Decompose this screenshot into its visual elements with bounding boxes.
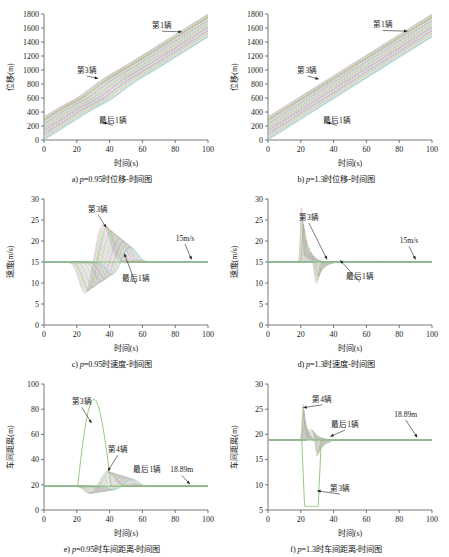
svg-text:800: 800 <box>27 80 39 89</box>
subplot-caption-e: e) p=0.95时车间距离-时间图 <box>0 542 224 554</box>
svg-text:80: 80 <box>171 330 179 339</box>
annotation-label: 第3辆 <box>77 65 97 75</box>
svg-text:10: 10 <box>255 481 263 490</box>
svg-text:1800: 1800 <box>23 10 39 19</box>
svg-text:10: 10 <box>255 279 263 288</box>
svg-text:400: 400 <box>251 108 263 117</box>
caption-prefix: d) <box>297 360 306 369</box>
svg-text:100: 100 <box>202 515 214 524</box>
svg-text:5: 5 <box>259 506 263 515</box>
svg-text:20: 20 <box>31 237 39 246</box>
plot-b: 0200400600800100012001400160018000204060… <box>224 0 448 186</box>
svg-text:60: 60 <box>362 145 370 154</box>
svg-text:30: 30 <box>255 380 263 389</box>
svg-text:1000: 1000 <box>23 66 39 75</box>
svg-text:5: 5 <box>35 300 39 309</box>
svg-text:20: 20 <box>31 481 39 490</box>
annotation-label: 第3辆 <box>88 204 108 214</box>
annotation-label: 15m/s <box>176 234 195 243</box>
annotation-group: 第3辆第4辆最后1辆18.89m <box>72 396 194 484</box>
svg-text:1600: 1600 <box>23 24 39 33</box>
x-axis-label: 时间(s) <box>114 343 139 353</box>
annotation-label: 第3辆 <box>330 483 350 493</box>
svg-text:40: 40 <box>330 330 338 339</box>
svg-text:80: 80 <box>171 145 179 154</box>
svg-text:100: 100 <box>202 330 214 339</box>
subplot-e: 020406080100020406080100时间(s)车间距离(m)第3辆第… <box>0 370 224 556</box>
svg-text:60: 60 <box>138 515 146 524</box>
y-axis-label: 速度(m/s) <box>229 245 239 278</box>
subplot-caption-c: c) p=0.95时速度-时间图 <box>0 357 224 369</box>
svg-text:30: 30 <box>255 195 263 204</box>
svg-text:200: 200 <box>251 122 263 131</box>
plot-d: 051015202530020406080100时间(s)速度(m/s)第3辆最… <box>224 185 448 371</box>
x-axis-label: 时间(s) <box>338 343 363 353</box>
y-axis-label: 速度(m/s) <box>5 245 15 278</box>
x-axis-label: 时间(s) <box>338 528 363 538</box>
annotation-label: 第1辆 <box>152 20 172 30</box>
svg-text:100: 100 <box>426 145 438 154</box>
subplot-d: 051015202530020406080100时间(s)速度(m/s)第3辆最… <box>224 185 448 371</box>
svg-text:1800: 1800 <box>247 10 263 19</box>
svg-text:20: 20 <box>73 330 81 339</box>
annotation-label: 最后1辆 <box>346 271 374 281</box>
svg-text:15: 15 <box>31 258 39 267</box>
svg-text:40: 40 <box>106 330 114 339</box>
svg-text:15: 15 <box>255 455 263 464</box>
svg-text:20: 20 <box>255 430 263 439</box>
svg-text:20: 20 <box>73 515 81 524</box>
annotation-label: 18.89m <box>170 465 193 474</box>
svg-text:100: 100 <box>202 145 214 154</box>
annotation-label: 18.89m <box>394 410 417 419</box>
caption-prefix: a) <box>72 175 80 184</box>
svg-text:40: 40 <box>106 515 114 524</box>
x-axis-label: 时间(s) <box>338 158 363 168</box>
svg-text:80: 80 <box>395 330 403 339</box>
caption-rest: =0.95时车间距离-时间图 <box>76 545 160 554</box>
annotation-label: 第4辆 <box>312 394 332 404</box>
svg-text:1600: 1600 <box>247 24 263 33</box>
svg-text:0: 0 <box>266 330 270 339</box>
caption-rest: =1.3时车间距离-时间图 <box>301 545 381 554</box>
svg-text:80: 80 <box>395 515 403 524</box>
svg-text:40: 40 <box>106 145 114 154</box>
plot-a: 0200400600800100012001400160018000204060… <box>0 0 224 186</box>
svg-text:40: 40 <box>31 455 39 464</box>
svg-text:0: 0 <box>266 515 270 524</box>
annotation-label: 第3辆 <box>72 396 92 406</box>
svg-text:20: 20 <box>297 330 305 339</box>
svg-text:20: 20 <box>297 145 305 154</box>
subplot-caption-b: b) p=1.3时位移-时间图 <box>224 172 448 184</box>
svg-text:60: 60 <box>362 330 370 339</box>
svg-text:10: 10 <box>31 279 39 288</box>
svg-text:60: 60 <box>138 145 146 154</box>
svg-text:15: 15 <box>255 258 263 267</box>
x-axis-label: 时间(s) <box>114 158 139 168</box>
caption-rest: =0.95时速度-时间图 <box>84 360 152 369</box>
annotation-label: 最后1辆 <box>331 419 359 429</box>
caption-rest: =0.95时位移-时间图 <box>84 175 152 184</box>
svg-text:80: 80 <box>31 405 39 414</box>
svg-text:100: 100 <box>426 515 438 524</box>
svg-text:800: 800 <box>251 80 263 89</box>
svg-text:0: 0 <box>259 321 263 330</box>
y-axis-label: 车间距离(m) <box>229 425 239 469</box>
svg-text:30: 30 <box>31 195 39 204</box>
caption-prefix: e) <box>64 545 72 554</box>
svg-text:1400: 1400 <box>247 38 263 47</box>
subplot-caption-a: a) p=0.95时位移-时间图 <box>0 172 224 184</box>
svg-text:80: 80 <box>395 145 403 154</box>
svg-text:100: 100 <box>426 330 438 339</box>
svg-text:40: 40 <box>330 515 338 524</box>
annotation-label: 最后1辆 <box>133 464 161 474</box>
subplot-caption-f: f) p=1.3时车间距离-时间图 <box>224 542 448 554</box>
annotation-label: 第3辆 <box>299 212 319 222</box>
svg-text:0: 0 <box>35 506 39 515</box>
svg-text:0: 0 <box>35 136 39 145</box>
annotation-label: 最后1辆 <box>323 115 351 125</box>
svg-text:25: 25 <box>255 216 263 225</box>
plot-e: 020406080100020406080100时间(s)车间距离(m)第3辆第… <box>0 370 224 556</box>
svg-text:0: 0 <box>259 136 263 145</box>
y-axis-label: 位移(m) <box>229 63 239 91</box>
svg-text:0: 0 <box>42 145 46 154</box>
